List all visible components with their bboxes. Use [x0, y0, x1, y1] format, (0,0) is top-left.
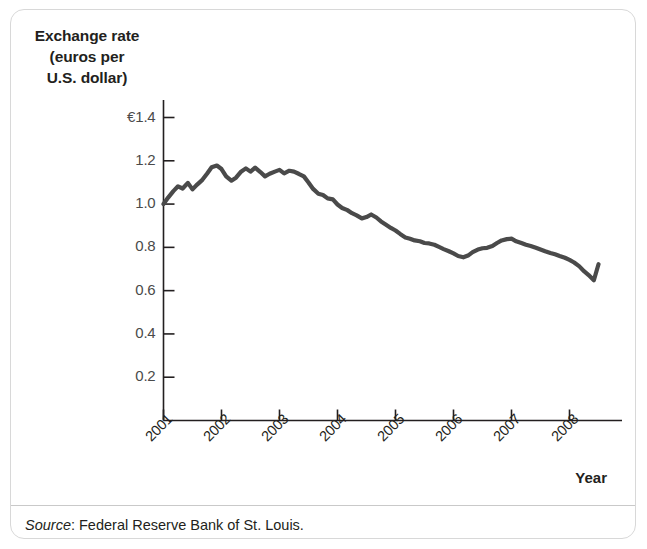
source-separator: :	[71, 517, 79, 533]
chart-svg	[0, 0, 647, 549]
y-axis-tick-label: 0.2	[90, 367, 156, 384]
y-axis-tick-label: €1.4	[90, 108, 156, 125]
y-axis-tick-label: 1.0	[90, 194, 156, 211]
source-label: Source	[25, 517, 71, 533]
source-text: Federal Reserve Bank of St. Louis.	[79, 517, 304, 533]
source-note: Source: Federal Reserve Bank of St. Loui…	[25, 517, 304, 533]
data-series-line	[164, 166, 599, 281]
line-chart-plot: €1.41.21.00.80.60.40.2200120022003200420…	[0, 0, 647, 549]
y-axis-tick-label: 1.2	[90, 151, 156, 168]
y-axis-tick-label: 0.4	[90, 324, 156, 341]
y-axis-tick-label: 0.6	[90, 281, 156, 298]
y-axis-tick-label: 0.8	[90, 237, 156, 254]
source-divider	[11, 505, 635, 506]
